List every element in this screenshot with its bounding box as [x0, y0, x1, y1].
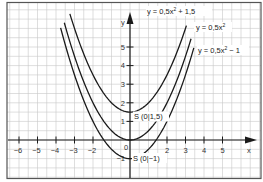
- x-tick-label: −3: [69, 146, 78, 155]
- x-tick-label: 3: [183, 146, 187, 155]
- x-tick-label: −6: [14, 146, 23, 155]
- eq1-label: y = 0,5x2 + 1,5: [147, 6, 195, 16]
- x-tick-label: 5: [220, 146, 224, 155]
- origin-label: 0: [124, 143, 128, 152]
- y-tick-label: 3: [121, 80, 125, 89]
- x-tick-label: −4: [51, 146, 60, 155]
- y-tick-label: 5: [121, 43, 125, 52]
- x-tick-label: −5: [32, 146, 41, 155]
- y-tick-label: 2: [121, 99, 125, 108]
- x-axis-label: x: [247, 146, 251, 155]
- eq3-label: y = 0,5x2 − 1: [198, 45, 240, 55]
- y-axis-label: y: [121, 18, 125, 27]
- y-tick-label: 4: [121, 61, 125, 70]
- y-tick-label: 1: [121, 117, 125, 126]
- x-tick-label: −2: [88, 146, 97, 155]
- x-tick-label: 4: [202, 146, 206, 155]
- vertex2-label: S (0|−1): [133, 154, 160, 163]
- parabola-chart: −6−5−4−3−2234512345−1 x y 0 S (0|1,5) S …: [0, 0, 263, 182]
- vertex1-label: S (0|1,5): [134, 112, 163, 121]
- eq2-label: y = 0,5x2: [196, 22, 225, 32]
